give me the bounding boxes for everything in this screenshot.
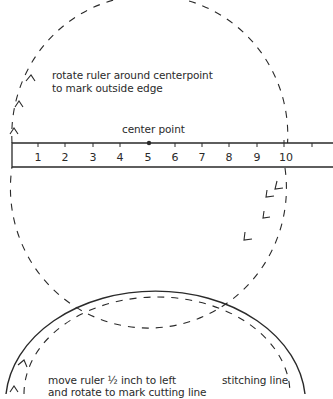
ruler-number-6: 6 (172, 151, 179, 164)
center-point-label: center point (122, 123, 185, 136)
lower-instruction-line-2: and rotate to mark cutting line (48, 386, 206, 399)
ruler-number-9: 9 (254, 151, 261, 164)
ruler-number-3: 3 (90, 151, 97, 164)
ruler-number-10: 10 (279, 151, 293, 164)
center-point-dot (147, 141, 151, 145)
stitching-line-label: stitching line (222, 374, 288, 387)
ruler-number-5: 5 (145, 151, 152, 164)
upper-instruction-line-2: to mark outside edge (52, 82, 163, 95)
ruler-number-1: 1 (35, 151, 42, 164)
ruler-number-7: 7 (199, 151, 206, 164)
rotation-arrow-icons-left (10, 75, 35, 134)
ruler-number-8: 8 (226, 151, 233, 164)
ruler-number-2: 2 (62, 151, 69, 164)
rotation-arrow-icons-right (244, 181, 283, 240)
upper-instruction-line-1: rotate ruler around centerpoint (52, 69, 213, 82)
ruler-number-4: 4 (117, 151, 124, 164)
